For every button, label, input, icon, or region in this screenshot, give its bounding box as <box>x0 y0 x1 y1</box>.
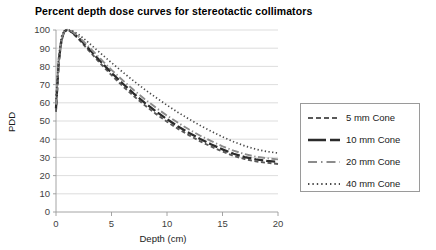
x-axis-title: Depth (cm) <box>140 233 187 244</box>
y-axis-title: PDD <box>6 112 17 132</box>
svg-text:10: 10 <box>39 188 50 199</box>
svg-text:80: 80 <box>39 61 50 72</box>
svg-text:15: 15 <box>217 218 228 229</box>
legend-item-20mm[interactable]: 20 mm Cone <box>307 151 415 173</box>
svg-text:60: 60 <box>39 97 50 108</box>
legend-item-5mm[interactable]: 5 mm Cone <box>307 107 415 129</box>
svg-text:70: 70 <box>39 79 50 90</box>
chart-container: Percent depth dose curves for stereotact… <box>0 0 436 250</box>
x-axis-ticks: 05101520 <box>53 212 283 229</box>
legend-swatch-10mm <box>307 134 341 146</box>
legend-swatch-40mm <box>307 178 341 190</box>
legend-label-20mm: 20 mm Cone <box>346 156 400 168</box>
svg-text:0: 0 <box>53 218 58 229</box>
svg-text:100: 100 <box>34 24 50 35</box>
legend-label-40mm: 40 mm Cone <box>346 178 400 190</box>
legend-swatch-5mm <box>307 112 341 124</box>
legend-item-10mm[interactable]: 10 mm Cone <box>307 129 415 151</box>
svg-text:20: 20 <box>39 170 50 181</box>
svg-text:10: 10 <box>162 218 173 229</box>
svg-text:30: 30 <box>39 152 50 163</box>
svg-text:0: 0 <box>45 206 50 217</box>
legend-label-10mm: 10 mm Cone <box>346 134 400 146</box>
legend-swatch-20mm <box>307 156 341 168</box>
svg-text:40: 40 <box>39 134 50 145</box>
svg-text:5: 5 <box>109 218 114 229</box>
data-series <box>56 30 278 164</box>
chart-legend: 5 mm Cone 10 mm Cone 20 mm Cone 40 mm Co… <box>300 103 420 192</box>
legend-item-40mm[interactable]: 40 mm Cone <box>307 173 415 195</box>
svg-text:90: 90 <box>39 43 50 54</box>
svg-text:50: 50 <box>39 115 50 126</box>
y-axis-ticks: 0102030405060708090100 <box>34 24 56 217</box>
gridlines <box>56 30 278 194</box>
legend-label-5mm: 5 mm Cone <box>346 112 395 124</box>
svg-text:20: 20 <box>273 218 284 229</box>
